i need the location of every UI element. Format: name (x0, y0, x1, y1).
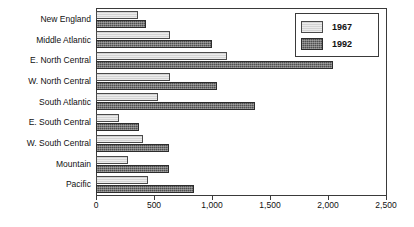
y-axis-label: Mountain (0, 154, 91, 175)
bar-1967 (96, 156, 128, 164)
y-axis-label: South Atlantic (0, 92, 91, 113)
bar-1992 (96, 61, 333, 69)
bar-1992 (96, 165, 169, 173)
bar-group (96, 71, 386, 92)
bar-1992 (96, 144, 169, 152)
legend-item-1967: 1967 (301, 19, 373, 34)
x-axis-tick-label: 1,000 (201, 200, 222, 210)
bar-1992 (96, 185, 194, 193)
x-axis-tick-label: 1,500 (259, 200, 280, 210)
bar-1967 (96, 31, 170, 39)
x-axis-tick-labels: 05001,0001,5002,0002,500 (0, 200, 414, 214)
bar-1992 (96, 20, 146, 28)
bar-1967 (96, 114, 119, 122)
x-axis-tick-label: 2,000 (317, 200, 338, 210)
bar-1967 (96, 176, 148, 184)
bar-group (96, 133, 386, 154)
bar-1992 (96, 40, 212, 48)
bar-1967 (96, 52, 227, 60)
bar-1992 (96, 102, 255, 110)
y-axis-label: E. North Central (0, 50, 91, 71)
legend-label-1992: 1992 (332, 39, 352, 49)
legend: 1967 1992 (295, 13, 379, 57)
bar-chart: New England Middle Atlantic E. North Cen… (0, 0, 414, 227)
y-axis-label: Pacific (0, 174, 91, 195)
bar-group (96, 92, 386, 113)
bar-1967 (96, 93, 158, 101)
bar-1992 (96, 82, 217, 90)
x-axis-tick-label: 500 (147, 200, 161, 210)
bar-group (96, 112, 386, 133)
y-axis-label: New England (0, 9, 91, 30)
legend-label-1967: 1967 (332, 22, 352, 32)
y-axis-label: E. South Central (0, 112, 91, 133)
bar-1992 (96, 123, 139, 131)
y-axis-labels: New England Middle Atlantic E. North Cen… (0, 9, 91, 195)
bar-group (96, 154, 386, 175)
bar-1967 (96, 73, 170, 81)
legend-swatch-1992 (301, 38, 323, 50)
bar-1967 (96, 11, 138, 19)
legend-swatch-1967 (301, 21, 323, 33)
legend-item-1992: 1992 (301, 36, 373, 51)
bar-1967 (96, 135, 143, 143)
y-axis-label: W. South Central (0, 133, 91, 154)
y-axis-label: W. North Central (0, 71, 91, 92)
x-axis-tick-label: 0 (94, 200, 99, 210)
y-axis-label: Middle Atlantic (0, 30, 91, 51)
x-axis-tick-label: 2,500 (375, 200, 396, 210)
bar-group (96, 174, 386, 195)
